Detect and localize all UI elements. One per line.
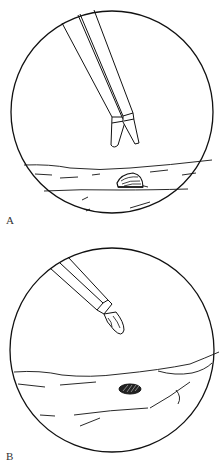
- panel-label-b: B: [6, 451, 13, 462]
- circular-field-b: [0, 232, 222, 465]
- panel-label-a: A: [6, 215, 14, 226]
- hatched-defect-icon: [119, 384, 141, 394]
- field-circle-b: [10, 248, 214, 452]
- field-circle-a: [11, 11, 213, 213]
- figure-panel-a: A: [0, 0, 222, 232]
- circular-field-a: [0, 0, 222, 232]
- figure-panel-b: B: [0, 232, 222, 465]
